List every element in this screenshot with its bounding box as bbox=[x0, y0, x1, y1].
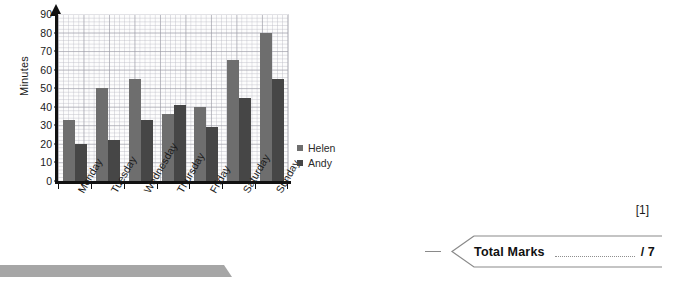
y-axis-tick-80: 80 bbox=[26, 27, 52, 38]
question-mark-allocation: [1] bbox=[636, 203, 649, 217]
y-axis-tick-10: 10 bbox=[26, 157, 52, 168]
legend-swatch-icon bbox=[297, 160, 303, 166]
bar-monday-helen bbox=[63, 120, 75, 181]
total-marks-blank-field[interactable] bbox=[555, 247, 635, 257]
x-axis-category-labels: MondayTuesdayWednesdayThursdayFridaySatu… bbox=[58, 189, 288, 247]
legend-swatch-icon bbox=[297, 145, 303, 151]
bar-chart: Minutes 9080706050403020100 MondayTuesda… bbox=[0, 0, 400, 250]
bar-group bbox=[91, 14, 124, 181]
bar-sunday-andy bbox=[272, 79, 284, 181]
bar-group bbox=[222, 14, 255, 181]
legend-label: Helen bbox=[308, 142, 335, 154]
y-axis-tick-0: 0 bbox=[26, 176, 52, 187]
y-axis-tick-70: 70 bbox=[26, 46, 52, 57]
y-axis-tick-40: 40 bbox=[26, 102, 52, 113]
legend-item-andy: Andy bbox=[297, 155, 335, 170]
legend-label: Andy bbox=[308, 157, 332, 169]
total-marks-box: Total Marks / 7 bbox=[438, 235, 663, 268]
y-axis-tick-20: 20 bbox=[26, 139, 52, 150]
y-axis-tick-90: 90 bbox=[26, 9, 52, 20]
bar-group bbox=[58, 14, 91, 181]
bottom-decorative-banner bbox=[0, 265, 232, 277]
chart-legend: HelenAndy bbox=[297, 140, 335, 170]
total-marks-label: Total Marks bbox=[474, 245, 545, 259]
legend-item-helen: Helen bbox=[297, 140, 335, 155]
y-axis-tick-60: 60 bbox=[26, 64, 52, 75]
total-marks-denominator: / 7 bbox=[641, 245, 655, 259]
bar-saturday-andy bbox=[239, 98, 251, 182]
y-axis-tick-30: 30 bbox=[26, 120, 52, 131]
y-axis-tick-labels: 9080706050403020100 bbox=[26, 14, 52, 181]
y-axis-tick-50: 50 bbox=[26, 83, 52, 94]
bar-saturday-helen bbox=[227, 60, 239, 181]
